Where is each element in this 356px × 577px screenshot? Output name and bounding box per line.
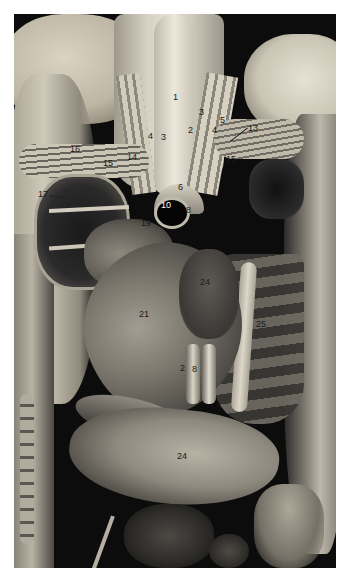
- label-8: 8: [192, 365, 197, 374]
- label-24: 24: [177, 452, 187, 461]
- label-2: 2: [188, 126, 193, 135]
- label-13: 13: [248, 124, 258, 133]
- label-8: 8: [186, 206, 191, 215]
- abdominal-tissue-center: [124, 504, 214, 568]
- label-19: 19: [141, 219, 151, 228]
- label-21: 21: [139, 310, 149, 319]
- heart-base: [179, 249, 239, 339]
- abdominal-tissue-right: [254, 484, 324, 568]
- label-6: 6: [178, 183, 183, 192]
- thoracic-window-right: [249, 159, 304, 219]
- label-16: 16: [70, 145, 80, 154]
- brachial-plexus-right: [214, 119, 304, 159]
- label-1: 1: [173, 93, 178, 102]
- label-24: 24: [200, 278, 210, 287]
- esophagus: [202, 344, 216, 404]
- label-2: 2: [180, 364, 185, 373]
- vessel-cross-section: [154, 197, 190, 229]
- label-4: 4: [148, 132, 153, 141]
- label-18: 18: [82, 222, 92, 231]
- label-4: 4: [212, 126, 217, 135]
- trachea: [154, 14, 194, 194]
- descending-aorta: [186, 344, 200, 404]
- costal-cartilage-chain: [20, 394, 34, 544]
- label-17: 17: [38, 190, 48, 199]
- probe: [87, 515, 115, 568]
- label-3: 3: [161, 133, 166, 142]
- label-15: 15: [103, 159, 113, 168]
- label-25: 25: [256, 320, 266, 329]
- label-14: 14: [127, 153, 137, 162]
- label-15: 15: [226, 155, 236, 164]
- abdominal-organ: [209, 534, 249, 568]
- label-3: 3: [199, 108, 204, 117]
- label-5: 5: [220, 116, 225, 125]
- label-10: 10: [161, 201, 171, 210]
